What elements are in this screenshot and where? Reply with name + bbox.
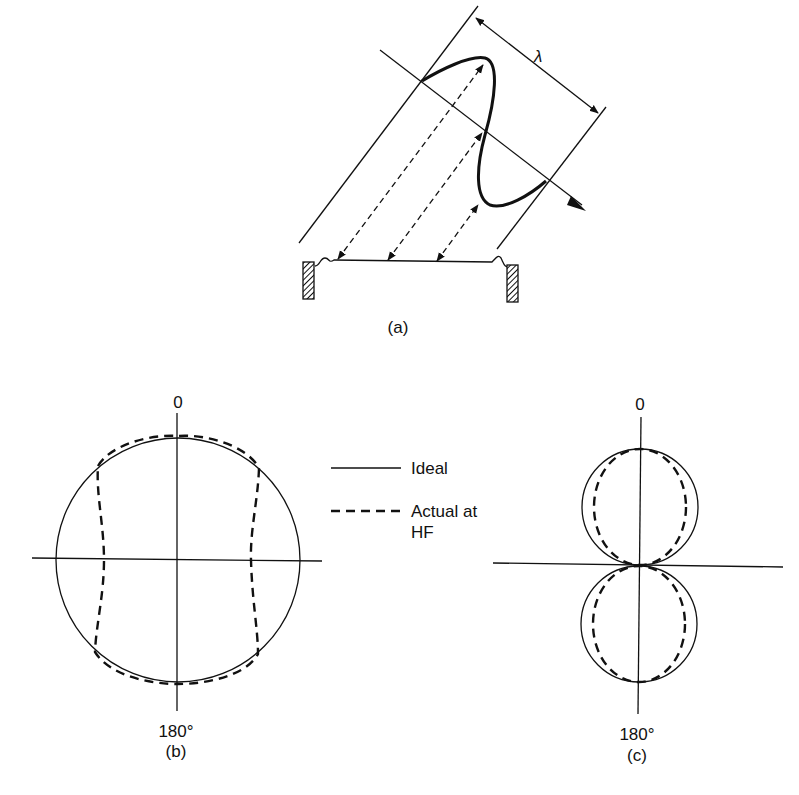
propagation-arrowhead-icon [567,196,586,211]
pole-piece-left [303,262,314,299]
ribbon-diaphragm [315,256,512,267]
propagation-axis [380,50,582,205]
panel-b-caption: (b) [166,742,187,761]
panel-b-top-label: 0 [173,393,182,412]
path-difference-arrow-2 [388,133,482,260]
legend: Ideal Actual at HF [331,459,477,542]
diagram-canvas: λ (a) 0 180° (b) Ideal Actual at [0,0,799,795]
panel-b-bottom-label: 180° [158,722,193,741]
panel-b: 0 180° (b) [32,393,322,761]
pole-piece-right [507,265,518,302]
wavelength-label: λ [533,47,542,66]
panel-c-caption: (c) [627,746,647,765]
wavefront-right-line [497,107,606,249]
panel-a-caption: (a) [388,318,409,337]
legend-ideal-label: Ideal [411,459,448,478]
panel-a: λ (a) [299,6,606,337]
wavefront-left-line [299,6,478,243]
sine-wave [422,58,546,206]
panel-c-top-label: 0 [635,395,644,414]
legend-actual-label-line1: Actual at [411,502,477,521]
path-difference-arrow-3 [437,205,478,261]
panel-c-bottom-label: 180° [619,725,654,744]
panel-c: 0 180° (c) [493,395,783,765]
legend-actual-label-line2: HF [411,523,434,542]
